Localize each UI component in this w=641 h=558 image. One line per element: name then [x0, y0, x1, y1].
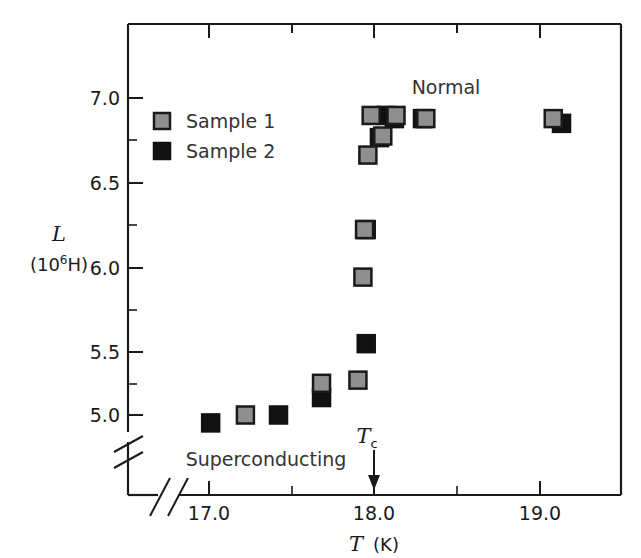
normal-region-label: Normal	[412, 76, 481, 98]
y-tick-label: 5.5	[90, 341, 120, 363]
data-point	[313, 375, 330, 392]
data-point	[237, 407, 254, 424]
data-point	[354, 269, 371, 286]
data-point	[349, 372, 366, 389]
x-tick-label: 17.0	[188, 502, 230, 524]
y-tick-label: 6.5	[90, 172, 120, 194]
tc-subscript: c	[370, 436, 377, 451]
x-tick-label: 19.0	[519, 502, 561, 524]
y-axis-label-symbol: L	[51, 222, 66, 246]
x-axis-label-group: T(K)	[349, 532, 399, 556]
data-point	[358, 335, 375, 352]
y-axis-label-unit: (106H)	[30, 253, 88, 275]
data-point	[270, 407, 287, 424]
data-point	[545, 110, 562, 127]
x-axis-label: T(K)	[349, 532, 399, 556]
superconducting-region-label: Superconducting	[186, 448, 347, 470]
x-axis-label-symbol: T	[349, 532, 365, 556]
data-point	[202, 414, 219, 431]
data-point	[359, 147, 376, 164]
data-point	[374, 128, 391, 145]
legend-swatch-sample-1	[154, 113, 170, 129]
legend-swatch-sample-2	[154, 143, 170, 159]
x-axis-label-unit: (K)	[373, 534, 399, 555]
y-unit-prefix: (10	[30, 254, 60, 275]
legend-label-sample-2: Sample 2	[186, 140, 275, 162]
y-tick-label: 7.0	[90, 87, 120, 109]
y-tick-label: 6.0	[90, 257, 120, 279]
plot-background	[0, 0, 641, 558]
y-unit-exponent: 6	[60, 253, 68, 267]
data-point	[388, 107, 405, 124]
y-tick-label: 5.0	[90, 404, 120, 426]
legend-label-sample-1: Sample 1	[186, 110, 275, 132]
data-point	[417, 110, 434, 127]
scatter-plot: 7.0 6.5 6.0 5.5 5.0 17.0 18.0	[0, 0, 641, 558]
data-point	[356, 221, 373, 238]
data-point	[363, 107, 380, 124]
x-tick-label: 18.0	[353, 502, 395, 524]
figure-container: 7.0 6.5 6.0 5.5 5.0 17.0 18.0	[0, 0, 641, 558]
y-unit-suffix: H)	[68, 254, 89, 275]
